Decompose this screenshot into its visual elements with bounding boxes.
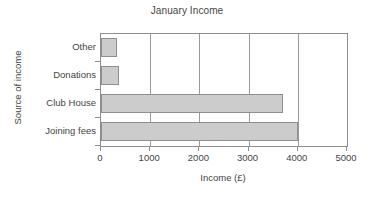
bar-row [101, 62, 347, 90]
y-tick-mark [95, 61, 100, 62]
y-axis-tick-labels: OtherDonationsClub HouseJoining fees [0, 33, 96, 145]
bar-row [101, 90, 347, 118]
y-tick-mark [95, 89, 100, 90]
bar-other [101, 38, 117, 57]
bar-club-house [101, 94, 283, 113]
x-tick-mark-4000 [297, 146, 298, 151]
bar-row [101, 118, 347, 146]
bar-row [101, 34, 347, 62]
x-tick-label-1000: 1000 [126, 152, 172, 163]
bar-donations [101, 66, 119, 85]
x-tick-mark-0 [100, 146, 101, 151]
x-tick-mark-5000 [346, 146, 347, 151]
x-tick-label-4000: 4000 [274, 152, 320, 163]
x-axis-title: Income (£) [100, 172, 346, 183]
x-tick-mark-2000 [198, 146, 199, 151]
y-tick-label-donations: Donations [4, 69, 96, 80]
x-tick-mark-1000 [149, 146, 150, 151]
y-tick-label-joining-fees: Joining fees [4, 125, 96, 136]
y-tick-mark [95, 117, 100, 118]
x-tick-label-0: 0 [77, 152, 123, 163]
x-tick-label-5000: 5000 [323, 152, 369, 163]
bar-chart-figure: January Income Source of income OtherDon… [0, 0, 374, 198]
plot-area [100, 33, 348, 147]
bar-joining-fees [101, 122, 298, 141]
x-tick-label-3000: 3000 [225, 152, 271, 163]
y-tick-label-other: Other [4, 41, 96, 52]
chart-title: January Income [0, 5, 374, 16]
x-tick-label-2000: 2000 [175, 152, 221, 163]
x-tick-mark-3000 [248, 146, 249, 151]
y-tick-label-club-house: Club House [4, 97, 96, 108]
